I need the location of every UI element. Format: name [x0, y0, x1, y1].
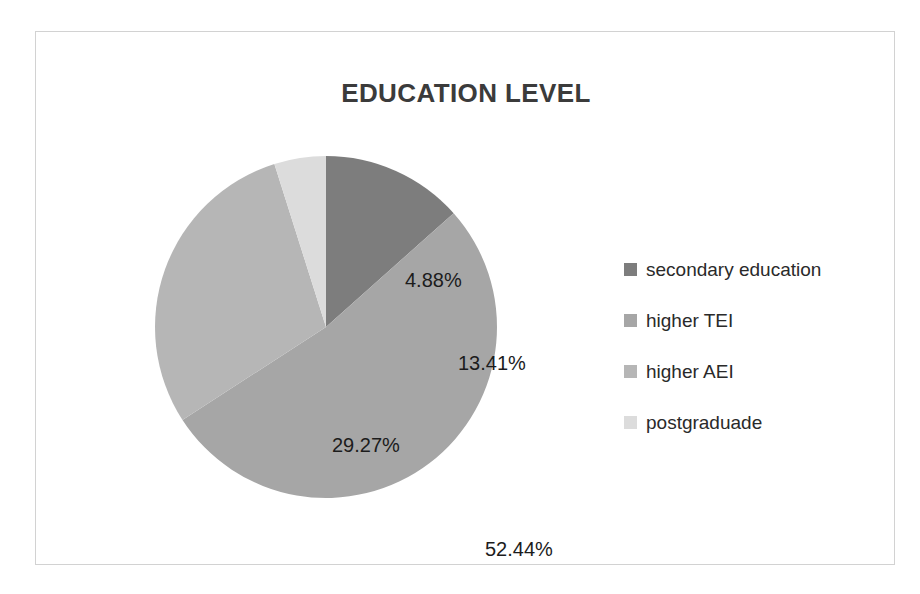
legend-swatch-icon: [624, 263, 637, 276]
legend-label: higher TEI: [646, 311, 733, 330]
pie-chart: 13.41% 52.44% 29.27% 4.88%: [155, 156, 497, 498]
chart-legend: secondary education higher TEI higher AE…: [624, 244, 884, 448]
legend-item-higher-aei: higher AEI: [624, 346, 884, 397]
legend-swatch-icon: [624, 314, 637, 327]
legend-label: postgraduade: [646, 413, 762, 432]
slice-label-higher-aei: 29.27%: [332, 434, 400, 457]
slice-label-secondary-education: 13.41%: [458, 352, 526, 375]
legend-item-higher-tei: higher TEI: [624, 295, 884, 346]
pie-slices: [155, 156, 497, 498]
slice-label-higher-tei: 52.44%: [485, 538, 553, 561]
legend-label: higher AEI: [646, 362, 734, 381]
legend-item-secondary-education: secondary education: [624, 244, 884, 295]
legend-swatch-icon: [624, 416, 637, 429]
chart-title: EDUCATION LEVEL: [36, 78, 896, 109]
slice-label-postgraduade: 4.88%: [405, 269, 462, 292]
pie-svg: [155, 156, 497, 498]
legend-item-postgraduade: postgraduade: [624, 397, 884, 448]
legend-swatch-icon: [624, 365, 637, 378]
chart-screenshot: EDUCATION LEVEL 13.41% 52.44% 29.27% 4.8…: [0, 0, 920, 594]
legend-label: secondary education: [646, 260, 821, 279]
chart-frame: EDUCATION LEVEL 13.41% 52.44% 29.27% 4.8…: [35, 31, 895, 565]
